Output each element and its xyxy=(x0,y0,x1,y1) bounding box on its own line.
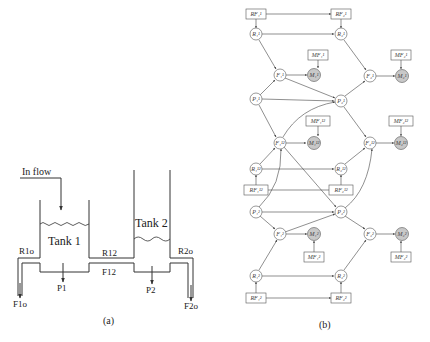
hidden-nodes xyxy=(250,28,376,282)
p1-label: P1 xyxy=(57,283,67,293)
tank1-label: Tank 1 xyxy=(48,234,81,248)
f2o-label: F2o xyxy=(184,301,199,311)
m2-12-label: M₂¹² xyxy=(395,140,407,146)
p2-label: P2 xyxy=(146,285,156,295)
tank1-water-surface xyxy=(40,223,89,226)
r1o-label: R1o xyxy=(19,246,35,256)
tank2-walls xyxy=(134,170,170,258)
mf2-12-label: MF₂¹² xyxy=(393,118,409,124)
m1-1-label: M₁¹ xyxy=(309,72,319,78)
f2-12-label: F₂¹² xyxy=(364,140,375,146)
rf2-12-label: RF₂¹² xyxy=(333,187,347,193)
p2-1-label: P₂¹ xyxy=(336,98,345,104)
tank2-water-surface xyxy=(134,237,170,241)
tank2-label: Tank 2 xyxy=(135,216,168,230)
tank-labels: In flow Tank 1 Tank 2 R1o R12 R2o F12 P1… xyxy=(13,166,199,327)
rf1-1-label: RF₁¹ xyxy=(249,11,261,17)
mf1-2-label: MF₁² xyxy=(307,254,321,260)
f1o-label: F1o xyxy=(13,299,28,309)
f2-2-label: F₂² xyxy=(365,231,374,237)
f1-2-label: F₁² xyxy=(275,231,284,237)
tank1-walls xyxy=(40,200,89,258)
observed-nodes xyxy=(308,69,409,241)
r1-1-label: R₁¹ xyxy=(251,31,260,37)
graphical-model-edges xyxy=(256,14,401,298)
rf2-2-label: RF₂² xyxy=(334,295,346,301)
rf1-12-label: RF₁¹² xyxy=(248,187,262,193)
r2-2-label: R₂² xyxy=(336,273,345,279)
f1-12-label: F₁¹² xyxy=(274,140,285,146)
caption-b: (b) xyxy=(319,319,331,331)
tank-diagram xyxy=(18,170,193,301)
mf1-1-label: MF₁¹ xyxy=(311,52,325,58)
node-labels: RF₁¹ RF₂¹ R₁¹ R₂¹ MF₁¹ MF₂¹ F₁¹ M₁¹ F₂¹ … xyxy=(248,11,408,301)
mf2-1-label: MF₂¹ xyxy=(394,52,408,58)
m1-12-label: M₁¹² xyxy=(308,140,320,146)
p1-2-label: P₁² xyxy=(251,209,260,215)
figure: In flow Tank 1 Tank 2 R1o R12 R2o F12 P1… xyxy=(0,0,430,342)
mf1-12-label: MF₁¹² xyxy=(310,118,326,124)
r2o-label: R2o xyxy=(178,246,194,256)
rf1-2-label: RF₁² xyxy=(249,295,261,301)
rf2-1-label: RF₂¹ xyxy=(334,11,346,17)
p1-1-label: P₁¹ xyxy=(251,96,260,102)
f12-label: F12 xyxy=(102,267,116,277)
f1-1-label: F₁¹ xyxy=(275,72,284,78)
m2-1-label: M₂¹ xyxy=(397,73,407,79)
m2-2-label: M₂² xyxy=(397,231,407,237)
r2-1-label: R₂¹ xyxy=(336,31,345,37)
caption-a: (a) xyxy=(103,315,114,327)
m1-2-label: M₁² xyxy=(309,231,319,237)
factor-nodes xyxy=(244,9,413,303)
p2-2-label: P₂² xyxy=(336,209,345,215)
r1-12-label: R₁¹² xyxy=(250,166,261,172)
r12-label: R12 xyxy=(102,248,117,258)
mf2-2-label: MF₂² xyxy=(394,254,408,260)
r2-12-label: R₂¹² xyxy=(335,166,346,172)
r1-2-label: R₁² xyxy=(251,273,260,279)
f2-1-label: F₂¹ xyxy=(365,73,374,79)
inflow-label: In flow xyxy=(22,166,52,177)
pipe-upper-contour xyxy=(18,258,193,298)
